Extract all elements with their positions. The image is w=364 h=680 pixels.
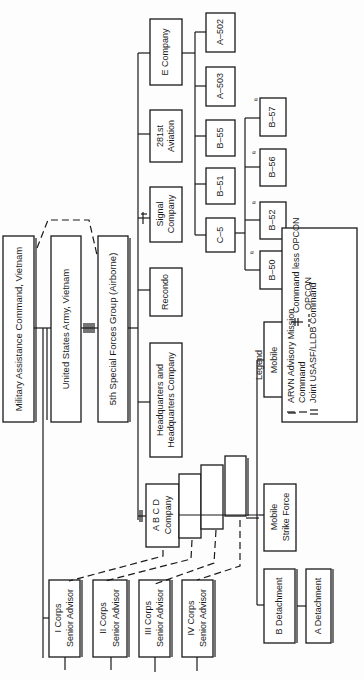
node-mgf-label-1: Mobile <box>269 347 279 374</box>
node-b55-label: B–55 <box>215 127 225 148</box>
node-macv-label: Military Assistance Command, Vietnam <box>13 247 24 412</box>
node-b-56: B–56 <box>260 149 286 186</box>
node-5th-sfg: 5th Special Forces Group (Airborne) <box>98 236 130 422</box>
node-b57-label: B–57 <box>267 106 277 127</box>
node-b51-label: B–51 <box>215 175 225 196</box>
annotation-a-b57: a <box>254 95 258 103</box>
node-adet-label: A Detachment <box>313 577 323 634</box>
node-signal-label-1: Signal <box>155 201 165 226</box>
annotation-a-b52: a <box>252 198 256 206</box>
node-b50-label: B–50 <box>267 259 277 280</box>
node-i-corps: I Corps Senior Advisor <box>49 580 82 670</box>
node-recondo: Recondo <box>150 268 182 316</box>
node-iii-corps: III Corps Senior Advisor <box>139 580 172 672</box>
node-msf-label-1: Mobile <box>269 504 279 531</box>
node-corps4-label-2: Senior Advisor <box>198 589 208 647</box>
legend-label-command: Command <box>297 361 307 403</box>
node-5th-sfg-label: 5th Special Forces Group (Airborne) <box>107 253 118 406</box>
node-usarv: United States Army, Vietnam <box>51 236 81 422</box>
annotation-a-b56: a <box>252 148 256 156</box>
org-chart-svg: Military Assistance Command, Vietnam Uni… <box>0 0 364 680</box>
node-281st-aviation: 281st Aviation <box>150 110 182 162</box>
node-b-57: B–57 <box>260 98 286 136</box>
node-hq-label-1: Headquarters and <box>155 364 165 436</box>
node-hq-company: Headquarters and Headquarters Company <box>150 343 182 457</box>
node-corps2-label-2: Senior Advisor <box>111 589 121 647</box>
node-corps1-label-1: I Corps <box>53 603 63 633</box>
node-mobile-strike-force: Mobile Strike Force <box>264 484 296 551</box>
usarv-sfg-link <box>81 323 98 333</box>
node-ii-corps: II Corps Senior Advisor <box>93 580 129 670</box>
node-aviation-label-2: Aviation <box>166 120 176 152</box>
node-c5-label: C–5 <box>215 227 225 244</box>
legend-title: Legend <box>254 350 264 380</box>
node-hq-label-2: Headquarters Company <box>166 352 176 448</box>
node-msf-label-2: Strike Force <box>281 493 291 542</box>
node-corps1-label-2: Senior Advisor <box>65 589 75 647</box>
node-e-company-label: E Company <box>160 28 170 76</box>
node-e-company: E Company <box>150 19 182 85</box>
annotation-a-b50: a <box>250 248 254 256</box>
node-corps3-label-1: III Corps <box>143 600 153 635</box>
node-corps2-label-1: II Corps <box>98 602 108 634</box>
node-a-detachment: A Detachment <box>306 569 333 643</box>
node-signal-company: Signal Company <box>150 187 182 242</box>
node-b-51: B–51 <box>206 168 235 204</box>
node-corps4-label-1: IV Corps <box>186 600 196 636</box>
node-c-5: C–5 <box>206 218 235 252</box>
signal-link <box>138 212 150 224</box>
node-usarv-label: United States Army, Vietnam <box>60 269 71 390</box>
abcd-link <box>138 510 146 522</box>
node-signal-label-2: Company <box>166 194 176 233</box>
node-abcd-company: A B C D Company <box>146 484 179 547</box>
node-bdet-label: B Detachment <box>274 577 284 635</box>
node-iv-corps: IV Corps Senior Advisor <box>182 580 215 671</box>
stacked-company-boxes <box>179 456 259 538</box>
legend-item-command-less-opcon: Command less OPCON <box>291 217 303 326</box>
node-recondo-label: Recondo <box>160 274 170 310</box>
node-a503-label: A–503 <box>215 73 225 99</box>
node-a502-label: A–502 <box>215 19 225 45</box>
node-macv: Military Assistance Command, Vietnam <box>3 236 36 422</box>
node-abcd-label-1: A B C D <box>151 498 161 531</box>
org-chart: Military Assistance Command, Vietnam Uni… <box>0 0 364 680</box>
legend-label-command-less-opcon: Command less OPCON <box>291 217 301 313</box>
node-b52-label: B–52 <box>267 209 277 230</box>
legend-label-opcon: OPCON <box>303 277 313 310</box>
node-b56-label: B–56 <box>267 156 277 177</box>
opcon-abcd-i-corps <box>69 550 163 581</box>
node-a-503: A–503 <box>206 67 235 106</box>
node-abcd-label-2: Company <box>163 495 173 534</box>
node-corps3-label-2: Senior Advisor <box>155 589 165 647</box>
node-a-502: A–502 <box>206 13 235 52</box>
node-b-55: B–55 <box>206 120 235 156</box>
node-aviation-label-1: 281st <box>155 124 165 147</box>
node-b-detachment: B Detachment <box>264 569 297 643</box>
